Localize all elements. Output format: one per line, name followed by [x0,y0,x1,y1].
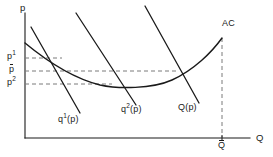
curves-group [25,6,222,113]
quantity-label-qbar-main: Q [218,141,225,150]
q2-curve-label: q2(p) [121,105,142,114]
q1-curve-label: q1(p) [58,115,79,124]
aggregate-demand-label-suffix: (p) [185,102,197,112]
price-label-p1-superscript: 1 [12,49,16,56]
ac-curve-label: AC [222,19,235,28]
q2-demand-curve [76,13,136,105]
ac-curve [25,38,222,88]
q1-curve-label-suffix: (p) [67,114,79,124]
price-label-p2: p2 [7,78,16,87]
q2-curve-label-suffix: (p) [130,104,142,114]
aggregate-demand-curve-label: Q(p) [178,103,197,112]
economics-figure: p Q AC p1 p p2 q1(p) q2(p) Q(p) Q [0,0,273,157]
price-label-pbar: p [9,65,14,74]
y-axis-label: p [20,3,25,13]
price-label-p2-superscript: 2 [12,75,16,82]
price-label-pbar-main: p [9,65,14,74]
quantity-label-qbar: Q [218,141,225,150]
x-axis-label: Q [256,133,264,143]
q1-demand-curve [31,27,80,113]
aggregate-demand-curve [145,6,199,103]
price-label-p1: p1 [7,52,16,61]
